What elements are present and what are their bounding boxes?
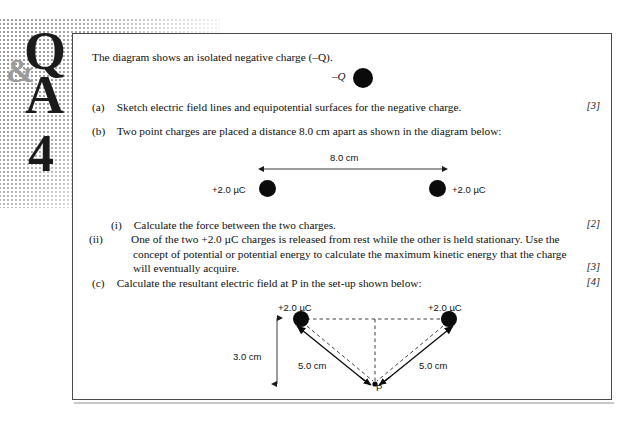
part-c-text: Calculate the resultant electric field a… xyxy=(117,277,422,289)
right-charge-label-b: +2.0 µC xyxy=(452,184,486,195)
part-bii-row: (ii)One of the two +2.0 µC charges is re… xyxy=(111,232,573,276)
part-bi-row: (i) Calculate the force between the two … xyxy=(111,218,336,232)
exam-question-page: & Q A 4 The diagram shows an isolated ne… xyxy=(0,0,644,423)
negative-charge-dot xyxy=(353,68,373,88)
part-c-marks: [4] xyxy=(560,276,600,287)
part-bi-marks: [2] xyxy=(560,218,600,229)
logo-letter-a: A xyxy=(25,68,64,122)
negative-charge-label: –Q xyxy=(332,70,345,82)
part-bi-label: (i) xyxy=(111,218,131,232)
right-charge-dot-b xyxy=(429,180,446,197)
part-bii-marks: [3] xyxy=(560,261,600,272)
part-bii-label: (ii) xyxy=(111,232,131,247)
question-box-shadow xyxy=(74,402,614,404)
part-a-marks: [3] xyxy=(560,100,600,111)
separation-dimension-arrow xyxy=(258,160,448,178)
point-p-label: P xyxy=(376,382,382,393)
left-charge-label-b: +2.0 µC xyxy=(212,184,246,195)
part-a-row: (a) Sketch electric field lines and equi… xyxy=(92,100,461,114)
part-bii-text: One of the two +2.0 µC charges is releas… xyxy=(131,233,567,274)
part-c-row: (c) Calculate the resultant electric fie… xyxy=(92,276,422,290)
question-intro-text: The diagram shows an isolated negative c… xyxy=(92,50,333,64)
logo-question-number: 4 xyxy=(28,128,54,180)
qa-logo: & Q A 4 xyxy=(0,20,80,200)
part-bi-text: Calculate the force between the two char… xyxy=(134,219,336,231)
part-a-label: (a) xyxy=(92,100,114,114)
left-distance-label: 5.0 cm xyxy=(298,360,327,371)
part-b-label: (b) xyxy=(92,124,114,138)
part-a-text: Sketch electric field lines and equipote… xyxy=(117,101,462,113)
part-b-text: Two point charges are placed a distance … xyxy=(117,125,502,137)
right-distance-label: 5.0 cm xyxy=(419,360,448,371)
part-b-row: (b) Two point charges are placed a dista… xyxy=(92,124,501,138)
right-charge-dot-c xyxy=(441,311,457,327)
left-charge-dot-c xyxy=(293,311,309,327)
height-dimension-label: 3.0 cm xyxy=(233,351,262,362)
part-c-label: (c) xyxy=(92,276,114,290)
left-charge-dot-b xyxy=(259,180,276,197)
